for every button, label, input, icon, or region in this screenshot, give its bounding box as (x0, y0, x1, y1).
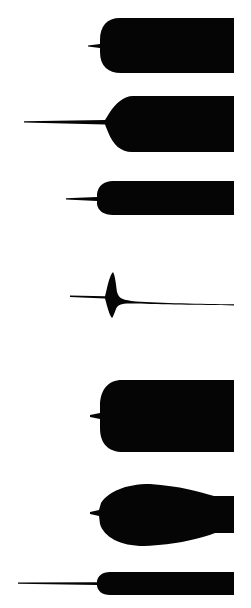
figure-plate (0, 0, 251, 608)
silhouette-canvas (0, 0, 251, 608)
specimen-1-silhouette (88, 18, 234, 73)
specimen-5-silhouette (90, 380, 234, 452)
